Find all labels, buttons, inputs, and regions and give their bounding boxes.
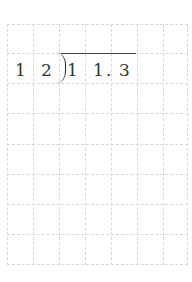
- division-overline: [61, 53, 136, 54]
- dividend-digit: 3: [119, 62, 130, 79]
- grid-line: [7, 174, 188, 175]
- dividend-digit: 1: [67, 62, 78, 79]
- dividend-digit: 1: [93, 62, 104, 79]
- grid-line: [7, 113, 188, 114]
- grid-line: [7, 234, 188, 235]
- divisor-digit: 1: [15, 62, 26, 79]
- grid-line: [7, 144, 188, 145]
- grid-line: [7, 83, 188, 84]
- grid-line: [7, 24, 188, 25]
- decimal-point: .: [106, 62, 111, 79]
- grid-line: [7, 264, 188, 265]
- divisor-digit: 2: [41, 62, 52, 79]
- grid-line: [7, 204, 188, 205]
